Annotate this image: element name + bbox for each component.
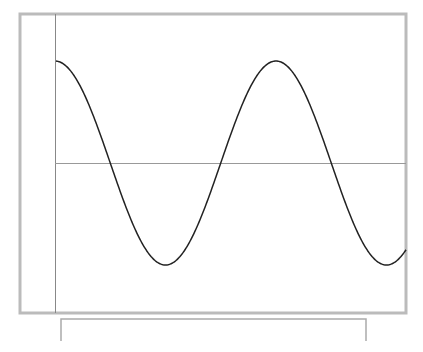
- line-chart: [0, 0, 423, 352]
- cosine-wave-series: [56, 61, 406, 265]
- chart-stage: [0, 0, 423, 352]
- lower-bracket-box: [61, 319, 366, 341]
